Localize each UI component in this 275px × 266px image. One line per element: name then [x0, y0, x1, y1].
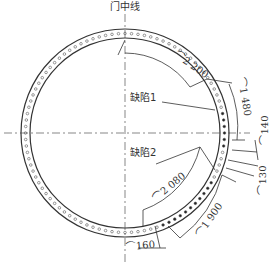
dimension-140: ⌒140 [260, 115, 270, 144]
defect-2-label: 缺陷2 [130, 148, 156, 158]
diagram-graphics [0, 0, 275, 266]
door-centerline-label: 门中线 [110, 2, 140, 12]
defect-1-label: 缺陷1 [130, 93, 156, 103]
flange-diagram: 门中线 缺陷1 缺陷2 ⌒2 200 ⌒1 480 ⌒140 ⌒130 ⌒2 0… [0, 0, 275, 266]
dimension-lines [118, 40, 258, 248]
dimension-130: ⌒130 [258, 165, 268, 194]
